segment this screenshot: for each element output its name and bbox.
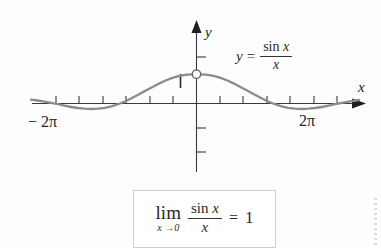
- limit-denominator: x: [199, 220, 212, 236]
- limit-numerator-variable: x: [212, 200, 219, 216]
- limit-subscript: x →0: [157, 223, 179, 233]
- sinx-over-x-figure: y x − 2π 2π y = sin x x lim x →0 sin x: [0, 0, 381, 248]
- curve-equation-fraction: sin x x: [260, 40, 292, 72]
- sin-word: sin: [263, 39, 279, 54]
- limit-operator: lim: [156, 203, 181, 222]
- limit-operator-stack: lim x →0: [156, 203, 181, 233]
- numerator-variable: x: [283, 39, 289, 54]
- curve-equation-equals: =: [247, 48, 255, 65]
- limit-result: 1: [245, 208, 254, 228]
- limit-expression: lim x →0 sin x x = 1: [156, 201, 254, 236]
- y-axis-label: y: [205, 24, 212, 41]
- limit-fraction: sin x x: [188, 201, 222, 236]
- curve-equation-numerator: sin x: [260, 40, 292, 55]
- x-tick-label-neg-2pi: − 2π: [28, 113, 57, 131]
- x-axis-label: x: [358, 79, 365, 96]
- curve-equation-lhs: y: [236, 48, 243, 65]
- x-tick-label-2pi: 2π: [299, 112, 315, 130]
- limit-equals: =: [229, 209, 238, 227]
- curve-equation-label: y = sin x x: [236, 40, 292, 72]
- open-point-at-origin: [192, 70, 200, 78]
- scan-edge-artifact: [374, 198, 377, 248]
- curve-equation-denominator: x: [270, 58, 282, 73]
- y-axis-arrowhead: [192, 20, 202, 33]
- limit-formula-box: lim x →0 sin x x = 1: [133, 190, 276, 248]
- limit-numerator: sin x: [188, 201, 222, 217]
- limit-sin-word: sin: [191, 200, 209, 216]
